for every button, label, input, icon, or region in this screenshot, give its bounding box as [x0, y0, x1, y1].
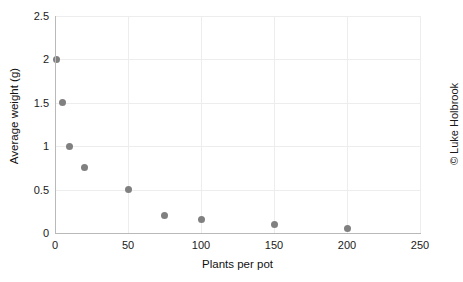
- y-axis-line: [55, 16, 56, 234]
- x-axis-title: Plants per pot: [55, 258, 420, 270]
- x-axis-tick-label: 200: [317, 240, 377, 251]
- y-axis-title-wrapper: Average weight (g): [0, 0, 22, 282]
- data-point: [59, 99, 66, 106]
- x-axis-line: [55, 233, 421, 234]
- gridline-vertical: [420, 16, 421, 233]
- gridline-horizontal: [55, 146, 420, 147]
- gridline-vertical: [347, 16, 348, 233]
- x-axis-tick-label: 0: [25, 240, 85, 251]
- data-point: [81, 164, 88, 171]
- x-axis-tick-label: 150: [244, 240, 304, 251]
- gridline-vertical: [128, 16, 129, 233]
- data-point: [125, 186, 132, 193]
- x-axis-tick-labels: 050100150200250: [55, 240, 420, 256]
- gridline-horizontal: [55, 59, 420, 60]
- plot-area: [55, 16, 420, 233]
- gridline-horizontal: [55, 16, 420, 17]
- gridline-horizontal: [55, 103, 420, 104]
- data-point: [271, 221, 278, 228]
- gridline-vertical: [201, 16, 202, 233]
- x-axis-tick-label: 50: [98, 240, 158, 251]
- gridline-vertical: [274, 16, 275, 233]
- credit-watermark: © Luke Holbrook: [448, 49, 460, 199]
- y-axis-title: Average weight (g): [8, 36, 20, 196]
- x-axis-tick-label: 100: [171, 240, 231, 251]
- data-point: [161, 212, 168, 219]
- data-point: [198, 216, 205, 223]
- x-axis-tick-label: 250: [390, 240, 450, 251]
- chart-figure: 00.511.522.5 050100150200250 Plants per …: [0, 0, 463, 282]
- gridline-horizontal: [55, 190, 420, 191]
- data-point: [66, 143, 73, 150]
- data-point: [53, 56, 60, 63]
- data-point: [344, 225, 351, 232]
